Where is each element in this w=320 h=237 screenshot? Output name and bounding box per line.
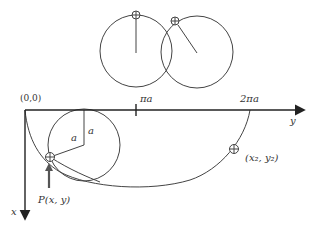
radius-label-vertical: a: [88, 125, 94, 136]
rolling-circle: [48, 109, 120, 181]
point-p-marker-icon: [46, 153, 55, 162]
radius-line: [178, 25, 197, 53]
cycloid-curve: [25, 110, 250, 187]
point-2-label: (x₂, y₂): [245, 152, 279, 163]
y-axis-label: y: [289, 115, 296, 126]
crosshair-marker-icon: [171, 17, 179, 25]
x-axis-label: x: [11, 206, 17, 217]
radius-to-p: [53, 145, 84, 156]
point-p-label: P(x, y): [37, 194, 70, 205]
tick-pi-label: πa: [139, 93, 153, 104]
point-2-marker-icon: [230, 145, 239, 154]
cycloid-diagram: (0,0) πa 2πa y x a a P(x, y) (x₂, y₂): [0, 0, 320, 237]
radius-label-diagonal: a: [71, 132, 77, 143]
crosshair-marker-icon: [132, 11, 140, 19]
tick-2pi-label: 2πa: [239, 93, 259, 104]
origin-label: (0,0): [20, 93, 41, 103]
